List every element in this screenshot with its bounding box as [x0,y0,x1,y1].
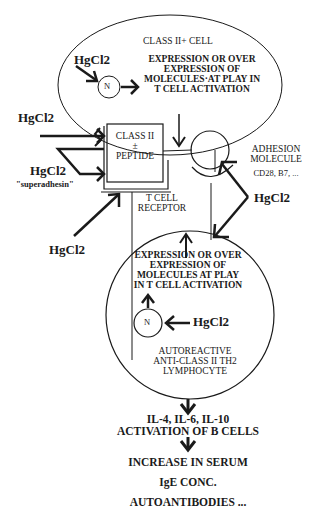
serum-increase-label: INCREASE IN SERUM [80,456,296,468]
autoantibodies-label: AUTOANTIBODIES ... [80,496,296,508]
hgcl2-label-bottom-left: HgCl2 [49,243,85,257]
class-ii-peptide-label: CLASS II ± PEPTIDE [107,132,163,162]
arrow-hgcl2-tcell [215,197,248,236]
hgcl2-label-t-cell-nucleus: HgCl2 [193,315,229,329]
class-ii-expression-text: EXPRESSION OR OVER EXPRESSION OF MOLECUL… [142,55,262,95]
class-ii-cell-title: CLASS II+ CELL [143,37,213,47]
cytokines-label: IL-4, IL-6, IL-10 [80,413,296,425]
hgcl2-label-top-left: HgCl2 [18,111,54,125]
hgcl2-label-class-ii-nucleus: HgCl2 [74,53,110,67]
t-cell-nucleus-label: N [144,318,150,327]
adhesion-molecule-circle [191,131,229,169]
adhesion-molecule-label: ADHESION MOLECULE CD28, B7, ... [241,145,311,178]
b-cell-activation-label: ACTIVATION OF B CELLS [80,425,296,437]
arrow-hgcl2-bottom-left [74,195,118,236]
superadhesin-label: "superadhesin" [16,180,74,189]
hgcl2-label-adhesion: HgCl2 [254,191,290,205]
t-cell-expression-text: EXPRESSION OR OVER EXPRESSION OF MOLECUL… [126,251,250,291]
t-cell-receptor-label: T CELL RECEPTOR [136,194,188,214]
ige-conc-label: IgE CONC. [80,476,296,488]
t-cell-type-label: AUTOREACTIVE ANTI-CLASS II TH2 LYMPHOCYT… [150,347,240,377]
hgcl2-label-superadhesin: HgCl2 [30,164,66,178]
arrow-hgcl2-to-nucleus-top [76,66,96,80]
class-ii-nucleus-label: N [104,82,110,91]
